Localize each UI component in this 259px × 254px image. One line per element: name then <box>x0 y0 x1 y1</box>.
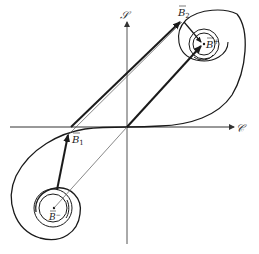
vector-to-b2 <box>71 22 180 127</box>
b-plus-point <box>203 43 205 45</box>
horizontal-axis-label: 𝒞 <box>236 122 247 135</box>
phase-plane-diagram: 𝒞 𝒮 B2 B+ <box>0 0 259 254</box>
label-b-plus: B+ <box>205 38 219 50</box>
vector-origin-to-b-plus <box>127 46 201 127</box>
label-b1: B1 <box>71 134 84 147</box>
point-labels: B2 B+ B1 B− <box>48 6 219 222</box>
vertical-axis-label: 𝒮 <box>120 9 132 22</box>
vector-b2-to-b-plus <box>184 22 201 42</box>
vectors <box>57 22 201 190</box>
vector-b-minus-to-b1 <box>57 135 68 190</box>
label-b2: B2 <box>177 7 190 20</box>
guide-b1-to-b2 <box>68 22 182 135</box>
guide-b-minus-to-origin <box>54 127 127 208</box>
guide-lines <box>54 22 182 208</box>
